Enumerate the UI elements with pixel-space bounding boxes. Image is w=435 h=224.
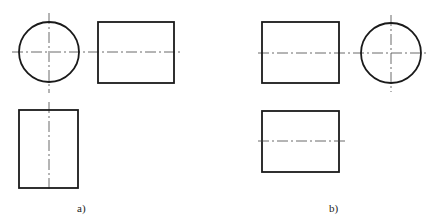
panel-a-bottom-rectangle xyxy=(19,110,78,188)
panel-a-label: a) xyxy=(77,202,86,215)
panel-b-label: b) xyxy=(329,202,339,215)
panel-a: a) xyxy=(12,13,180,215)
panel-b-side-rectangle xyxy=(262,22,339,83)
panel-b-bottom-rectangle xyxy=(262,111,339,172)
panel-b: b) xyxy=(258,15,428,215)
projection-diagram: a) b) xyxy=(0,0,435,224)
panel-a-side-rectangle xyxy=(98,22,174,83)
